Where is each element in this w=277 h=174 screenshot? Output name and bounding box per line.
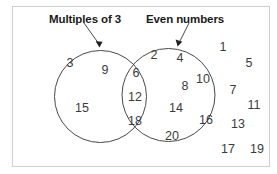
venn-number-intersection: 18 (128, 114, 142, 128)
venn-number-left-only: 9 (102, 63, 109, 77)
right-label-arrow-line (179, 23, 189, 43)
venn-number-outside: 17 (221, 142, 235, 156)
venn-number-outside: 19 (250, 142, 264, 156)
venn-number-left-only: 15 (75, 101, 89, 115)
venn-number-outside: 13 (231, 117, 245, 131)
venn-number-right-only: 8 (182, 79, 189, 93)
venn-number-outside: 1 (220, 40, 227, 54)
venn-number-left-only: 3 (67, 56, 74, 70)
venn-number-right-only: 2 (151, 48, 158, 62)
venn-diagram-figure: Multiples of 3 Even numbers 391561218241… (0, 0, 277, 174)
right-set-label: Even numbers (146, 13, 224, 25)
venn-number-outside: 11 (248, 98, 261, 112)
right-label-arrowhead (176, 40, 183, 47)
venn-number-right-only: 10 (196, 72, 210, 86)
venn-number-outside: 5 (246, 56, 253, 70)
left-label-arrow-line (84, 23, 99, 44)
venn-number-intersection: 12 (128, 90, 142, 104)
venn-number-right-only: 4 (177, 51, 184, 65)
venn-number-right-only: 14 (169, 101, 183, 115)
venn-number-outside: 7 (230, 83, 237, 97)
venn-number-right-only: 20 (165, 129, 179, 143)
venn-number-right-only: 16 (199, 113, 213, 127)
left-label-arrowhead (96, 41, 103, 47)
venn-number-intersection: 6 (133, 66, 140, 80)
left-set-label: Multiples of 3 (49, 13, 121, 25)
